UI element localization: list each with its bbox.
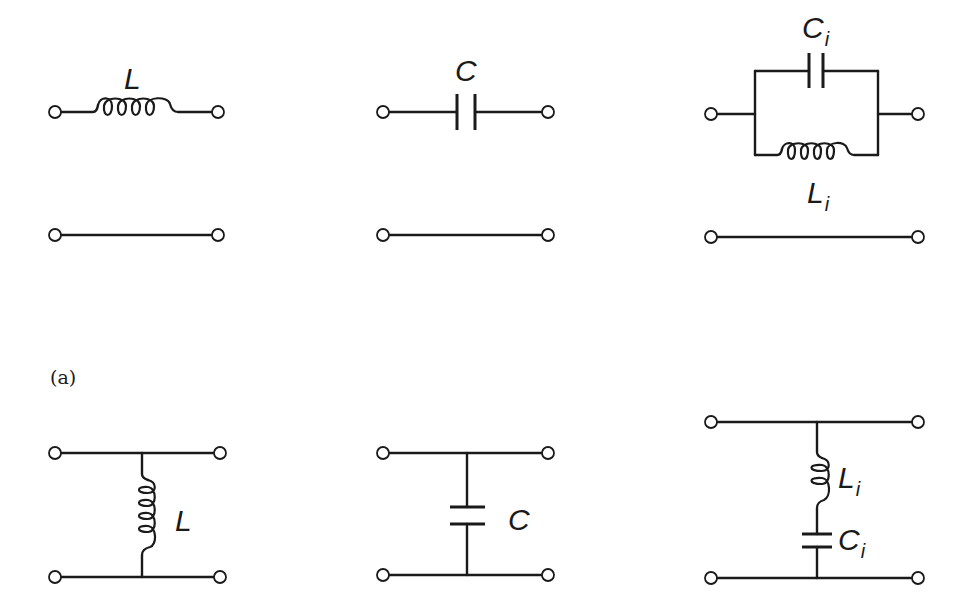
terminal-icon	[705, 572, 717, 584]
terminal-icon	[377, 447, 389, 459]
circuit-shunt-inductor: L	[49, 447, 226, 583]
inductor-coil-icon	[812, 458, 830, 508]
terminal-icon	[912, 108, 924, 120]
label-Li: Li	[807, 176, 830, 215]
terminal-icon	[214, 571, 226, 583]
terminal-icon	[705, 416, 717, 428]
terminal-icon	[377, 229, 389, 241]
top-wire	[61, 105, 98, 112]
terminal-icon	[705, 108, 717, 120]
terminal-icon	[377, 569, 389, 581]
inductor-coil-icon	[782, 143, 854, 159]
terminal-icon	[705, 231, 717, 243]
terminal-icon	[542, 447, 554, 459]
circuit-series-lc-shunt: Li Ci	[705, 416, 924, 584]
terminal-icon	[377, 106, 389, 118]
terminal-icon	[49, 447, 61, 459]
label-L: L	[175, 504, 192, 537]
terminal-icon	[542, 569, 554, 581]
terminal-icon	[212, 229, 224, 241]
circuit-series-inductor: L	[49, 62, 224, 241]
terminal-icon	[542, 229, 554, 241]
panel-label: (a)	[50, 366, 76, 388]
label-Li: Li	[838, 461, 861, 500]
inductor-coil-icon	[139, 480, 155, 555]
circuit-series-capacitor: C	[377, 54, 554, 241]
terminal-icon	[212, 106, 224, 118]
terminal-icon	[49, 229, 61, 241]
circuit-diagram: L C Ci Li	[0, 0, 970, 601]
terminal-icon	[214, 447, 226, 459]
label-Ci: Ci	[802, 11, 830, 50]
label-C: C	[455, 54, 477, 87]
circuit-parallel-lc: Ci Li	[705, 11, 924, 243]
terminal-icon	[49, 571, 61, 583]
label-Ci: Ci	[838, 523, 866, 562]
label-C: C	[508, 503, 530, 536]
terminal-icon	[912, 416, 924, 428]
inductor-coil-icon	[98, 98, 178, 115]
terminal-icon	[542, 106, 554, 118]
label-L: L	[124, 62, 141, 95]
terminal-icon	[912, 231, 924, 243]
terminal-icon	[49, 106, 61, 118]
circuit-shunt-capacitor: C	[377, 447, 554, 581]
terminal-icon	[912, 572, 924, 584]
